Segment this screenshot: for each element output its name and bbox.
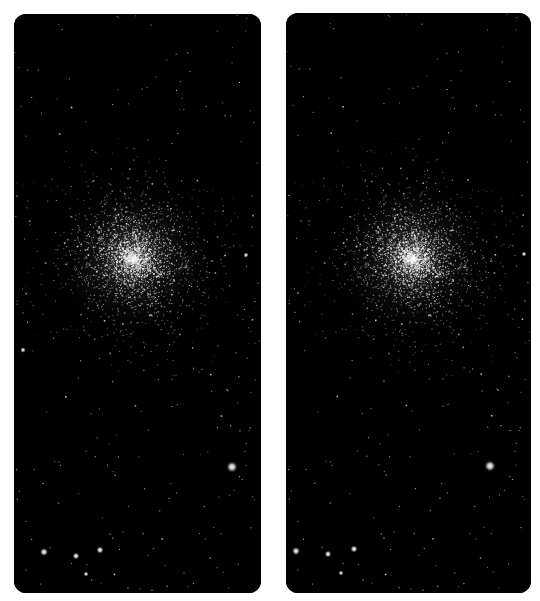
star-field-left-panel [14, 14, 261, 593]
star-field-right-panel [286, 13, 531, 593]
star-field-left-canvas [14, 14, 261, 593]
star-field-right-canvas [286, 13, 531, 593]
